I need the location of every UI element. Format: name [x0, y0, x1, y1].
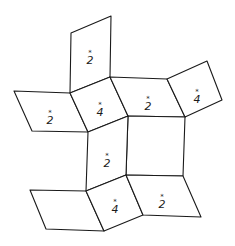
- polyhedron-net-diagram: *2*2*4*2*4*2*4*2: [0, 0, 235, 246]
- net-faces: *2*2*4*2*4*2*4*2: [14, 16, 222, 231]
- face-label: 4: [112, 203, 119, 216]
- face-label: 2: [145, 100, 152, 113]
- face-label: 2: [47, 114, 54, 127]
- face-center-square: [126, 116, 185, 176]
- face-label: 2: [104, 157, 111, 170]
- face-label: 2: [87, 54, 94, 67]
- face-label: 4: [194, 93, 201, 106]
- face-label: 2: [159, 198, 166, 211]
- face-outline: [126, 116, 185, 176]
- face-label: 4: [97, 106, 104, 119]
